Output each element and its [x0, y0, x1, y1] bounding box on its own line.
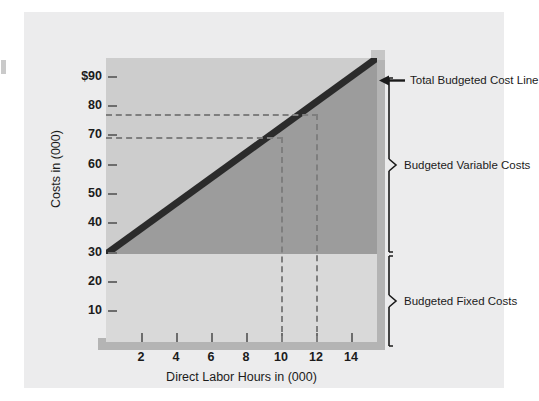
x-tick-2: [141, 333, 143, 342]
x-label-8: 8: [243, 350, 250, 364]
y-tick-90: [108, 76, 117, 78]
budgeted-fixed-costs-brace-icon: [387, 255, 399, 347]
guide-hline-78: [106, 114, 318, 116]
x-tick-8: [246, 333, 248, 342]
x-label-14: 14: [344, 350, 358, 364]
y-label-10: 10: [88, 303, 102, 317]
x-axis-title: Direct Labor Hours in (000): [106, 370, 377, 384]
y-label-90: $90: [81, 69, 102, 83]
y-label-70: 70: [88, 127, 102, 141]
x-label-2: 2: [138, 350, 145, 364]
guide-vline-12: [316, 114, 318, 342]
y-label-50: 50: [88, 186, 102, 200]
x-label-12: 12: [309, 350, 323, 364]
y-tick-20: [108, 281, 117, 283]
x-tick-4: [176, 333, 178, 342]
plot-area: [106, 58, 377, 342]
y-tick-70: [108, 134, 117, 136]
y-tick-40: [108, 222, 117, 224]
chart-panel: $90 80 70 60 50 40 30 20 10 2 4 6 8 10 1…: [24, 12, 504, 388]
budgeted-variable-costs-brace-icon: [387, 77, 399, 253]
x-label-6: 6: [208, 350, 215, 364]
y-tick-10: [108, 310, 117, 312]
x-tick-14: [351, 333, 353, 342]
budgeted-variable-costs-region: [106, 58, 377, 254]
y-label-30: 30: [88, 245, 102, 259]
y-tick-30: [108, 252, 117, 254]
annotation-budgeted-variable-costs: Budgeted Variable Costs: [404, 159, 530, 171]
y-label-20: 20: [88, 274, 102, 288]
y-label-80: 80: [88, 98, 102, 112]
guide-hline-70: [106, 137, 283, 139]
guide-vline-10: [281, 137, 283, 342]
annotation-total-budgeted-cost-line: Total Budgeted Cost Line: [410, 74, 539, 86]
x-label-4: 4: [173, 350, 180, 364]
y-label-60: 60: [88, 157, 102, 171]
x-tick-6: [211, 333, 213, 342]
page-margin-artifact: [1, 60, 6, 74]
x-label-10: 10: [274, 350, 288, 364]
x-axis-tick-labels: 2 4 6 8 10 12 14: [106, 350, 377, 368]
y-label-40: 40: [88, 215, 102, 229]
y-tick-80: [108, 105, 117, 107]
y-axis-title: Costs in (000): [49, 99, 63, 239]
annotation-budgeted-fixed-costs: Budgeted Fixed Costs: [404, 295, 517, 307]
y-tick-60: [108, 164, 117, 166]
y-tick-50: [108, 193, 117, 195]
budgeted-fixed-costs-region: [106, 254, 377, 342]
